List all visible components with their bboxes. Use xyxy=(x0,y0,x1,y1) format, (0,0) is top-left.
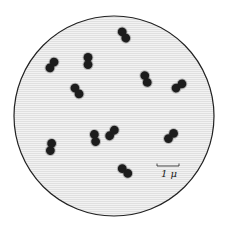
scale-bar-label: 1 μ xyxy=(161,169,177,179)
diplococcus xyxy=(83,52,94,70)
microscope-field-figure xyxy=(0,0,227,230)
microscope-field xyxy=(14,16,214,216)
